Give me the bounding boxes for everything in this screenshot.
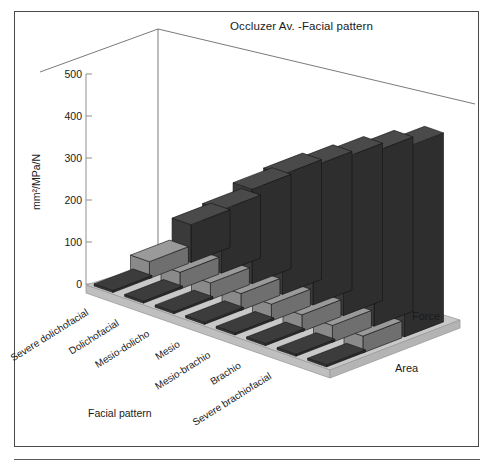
figure-root: Occluzer Av. -Facial pattern 500 400 300… [0, 0, 494, 467]
category-label-0: Severe dolichofacial [8, 307, 90, 364]
y-tick-200: 200 [64, 194, 82, 206]
chart-plot-area: 500 400 300 200 100 0 mm²/MPa/N Severe d… [0, 0, 494, 467]
y-tick-400: 400 [64, 110, 82, 122]
y-axis-title: mm²/MPa/N [30, 154, 42, 210]
x-axis-title: Facial pattern [88, 407, 152, 419]
category-label-3: Mesio [153, 338, 182, 362]
y-tick-500: 500 [64, 68, 82, 80]
series-label-force: Force [412, 310, 440, 322]
y-tick-0: 0 [76, 278, 82, 290]
category-label-5: Brachio [208, 359, 243, 387]
series-label-area: Area [395, 362, 419, 374]
y-axis: 500 400 300 200 100 0 mm²/MPa/N [30, 68, 92, 290]
y-tick-100: 100 [64, 236, 82, 248]
y-tick-300: 300 [64, 152, 82, 164]
category-label-6: Severe brachiofacial [191, 370, 274, 427]
